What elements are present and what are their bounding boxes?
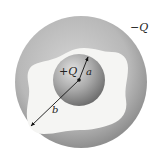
inner-charge-label: +Q — [59, 65, 77, 78]
radius-b-label: b — [52, 104, 58, 115]
outer-charge-label: −Q — [130, 21, 148, 34]
diagram-canvas: −Q +Q a b — [0, 0, 160, 157]
radius-a-label: a — [86, 66, 92, 77]
conductor-diagram: −Q +Q a b — [0, 0, 160, 157]
center-point — [77, 78, 81, 82]
